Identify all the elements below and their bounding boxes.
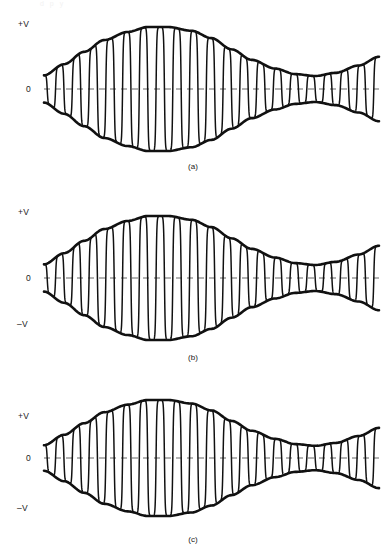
waveform-panel-c: +V 0 –V (c): [0, 380, 386, 555]
axis-label-zero-c: 0: [26, 454, 31, 463]
waveform-plot-b: [0, 190, 386, 380]
axis-label-zero-b: 0: [26, 274, 31, 283]
panel-caption-b: (b): [0, 354, 386, 362]
axis-label-zero-a: 0: [26, 85, 31, 94]
waveform-panel-b: +V 0 –V (b): [0, 190, 386, 380]
axis-label-positive-a: +V: [18, 20, 29, 29]
figure-root: d p y +V 0 (a) +V 0: [0, 0, 386, 555]
axis-label-negative-b: –V: [17, 320, 28, 329]
waveform-panel-a: +V 0 (a): [0, 0, 386, 190]
panel-caption-c: (c): [0, 536, 386, 544]
waveform-plot-c: [0, 380, 386, 555]
axis-label-negative-c: –V: [17, 504, 28, 513]
axis-label-positive-c: +V: [18, 412, 29, 421]
panel-caption-a: (a): [0, 163, 386, 171]
axis-label-positive-b: +V: [18, 208, 29, 217]
